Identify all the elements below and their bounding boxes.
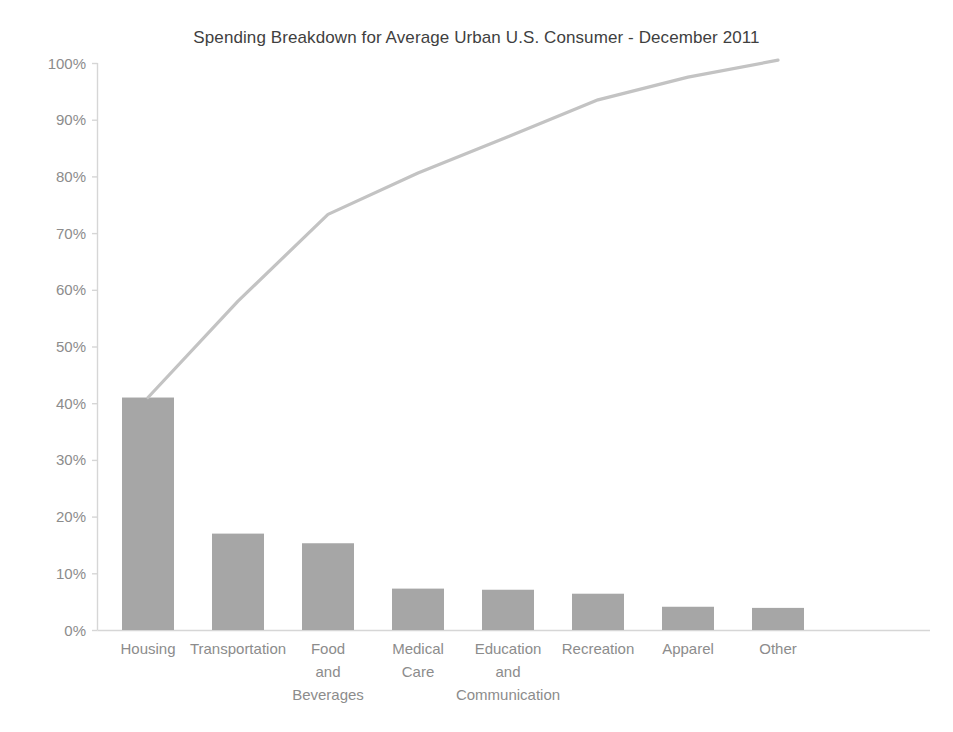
y-tick-label: 60% <box>56 281 86 298</box>
x-tick-label: Recreation <box>562 640 635 657</box>
x-tick-label: and <box>495 663 520 680</box>
bar <box>752 608 804 630</box>
x-tick-label: Housing <box>120 640 175 657</box>
y-tick-label: 50% <box>56 338 86 355</box>
bar <box>392 589 444 630</box>
y-tick-label: 90% <box>56 111 86 128</box>
bar <box>662 607 714 630</box>
x-tick-label: Beverages <box>292 686 364 703</box>
x-axis-tick-labels: HousingTransportationFoodandBeveragesMed… <box>120 640 796 703</box>
y-axis-tick-marks <box>92 64 98 631</box>
x-tick-label: Communication <box>456 686 560 703</box>
y-tick-label: 0% <box>64 622 86 639</box>
y-tick-label: 70% <box>56 225 86 242</box>
x-tick-label: Care <box>402 663 435 680</box>
x-tick-label: Medical <box>392 640 444 657</box>
pareto-chart: Spending Breakdown for Average Urban U.S… <box>0 0 953 732</box>
y-tick-label: 30% <box>56 451 86 468</box>
y-tick-label: 80% <box>56 168 86 185</box>
bar-series <box>122 398 804 630</box>
y-tick-label: 10% <box>56 565 86 582</box>
cumulative-line-series <box>148 60 778 397</box>
bar <box>482 590 534 630</box>
x-tick-label: Other <box>759 640 797 657</box>
bar <box>212 534 264 630</box>
y-axis-tick-labels: 0%10%20%30%40%50%60%70%80%90%100% <box>48 55 86 639</box>
bar <box>302 543 354 630</box>
y-tick-label: 100% <box>48 55 86 72</box>
chart-plot-area: 0%10%20%30%40%50%60%70%80%90%100% Housin… <box>0 0 953 732</box>
x-tick-label: Transportation <box>190 640 286 657</box>
y-tick-label: 40% <box>56 395 86 412</box>
x-tick-label: Education <box>475 640 542 657</box>
x-tick-label: and <box>315 663 340 680</box>
bar <box>122 398 174 630</box>
x-tick-label: Food <box>311 640 345 657</box>
bar <box>572 594 624 630</box>
y-tick-label: 20% <box>56 508 86 525</box>
x-tick-label: Apparel <box>662 640 714 657</box>
